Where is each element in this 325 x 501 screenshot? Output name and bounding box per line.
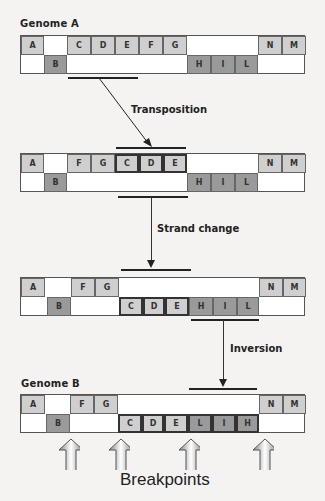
breakpoint-arrow-icon <box>108 438 130 470</box>
breakpoint-arrow-icon <box>58 438 80 470</box>
transposition-arrow <box>0 0 325 501</box>
breakpoints-title: Breakpoints <box>120 470 210 490</box>
breakpoint-arrow-icon <box>178 438 200 470</box>
breakpoint-arrow-icon <box>252 438 274 470</box>
